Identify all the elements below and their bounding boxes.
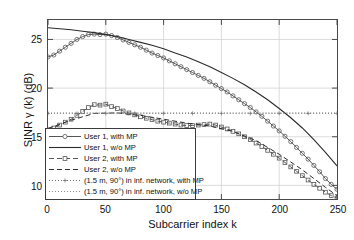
legend-item[interactable]: User 1, with MP (48, 131, 192, 142)
x-axis-title: Subcarrier index k (47, 218, 338, 230)
legend-label: User 1, w/o MP (82, 142, 136, 153)
x-tick-label: 0 (44, 204, 50, 215)
y-axis-title: SINR γ (k) (dB) (22, 25, 34, 195)
x-tick-label: 250 (330, 204, 347, 215)
legend-label: (1.5 m, 90°) in inf. network, w/o MP (82, 186, 202, 197)
legend-label: (1.5 m, 90°) in inf. network, with MP (82, 175, 204, 186)
legend-symbol-icon (48, 153, 82, 164)
legend-symbol-icon (48, 131, 82, 142)
series-5 (48, 111, 337, 115)
legend-label: User 2, with MP (82, 153, 138, 164)
legend-item[interactable]: User 2, with MP (48, 153, 192, 164)
x-tick-label: 100 (155, 204, 172, 215)
legend-label: User 1, with MP (82, 131, 138, 142)
legend-item[interactable]: (1.5 m, 90°) in inf. network, with MP (48, 175, 192, 186)
legend-label: User 2, w/o MP (82, 164, 136, 175)
chart-figure: SINR γ (k) (dB) 10152025 050100150200250… (0, 0, 354, 240)
legend-symbol-icon (48, 186, 82, 197)
y-tick-label: 15 (18, 132, 42, 143)
y-tick-label: 20 (18, 82, 42, 93)
x-tick-label: 50 (100, 204, 111, 215)
y-tick-label: 10 (18, 181, 42, 192)
legend-symbol-icon (48, 142, 82, 153)
x-tick-label: 150 (213, 204, 230, 215)
legend-item[interactable]: (1.5 m, 90°) in inf. network, w/o MP (48, 186, 192, 197)
legend-item[interactable]: User 1, w/o MP (48, 142, 192, 153)
x-tick-label: 200 (271, 204, 288, 215)
x-axis-title-text: Subcarrier index k (148, 218, 237, 230)
legend-symbol-icon (48, 175, 82, 186)
y-tick-label: 25 (18, 33, 42, 44)
legend-symbol-icon (48, 164, 82, 175)
legend-item[interactable]: User 2, w/o MP (48, 164, 192, 175)
legend: User 1, with MPUser 1, w/o MPUser 2, wit… (45, 128, 196, 200)
